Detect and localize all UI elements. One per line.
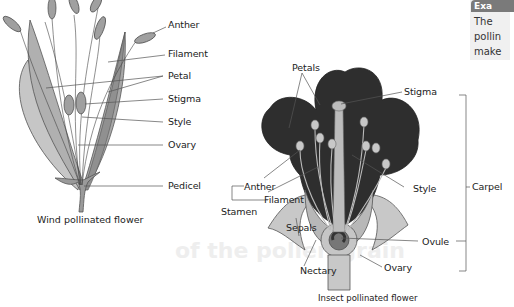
label-filament-insect: Filament [264,194,304,205]
label-pedicel: Pedicel [168,180,201,191]
insect-flower-illustration [262,68,419,290]
label-stamen: Stamen [221,206,257,217]
label-anther-insect: Anther [244,181,275,192]
label-stigma: Stigma [168,93,201,104]
label-petal: Petal [168,70,191,81]
label-stigma-insect: Stigma [404,86,437,97]
label-carpel: Carpel [472,181,502,192]
label-ovary-insect: Ovary [384,262,412,273]
label-petals: Petals [292,62,320,73]
label-ovule: Ovule [422,236,449,247]
caption-wind-flower: Wind pollinated flower [37,214,143,225]
label-ovary: Ovary [168,139,196,150]
label-nectary: Nectary [300,265,337,276]
label-style: Style [168,116,191,127]
label-anther: Anther [168,19,199,30]
wind-flower-illustration [1,0,157,212]
caption-insect-flower: Insect pollinated flower [318,293,417,303]
label-style-insect: Style [413,183,436,194]
label-sepals: Sepals [286,222,317,233]
label-filament: Filament [168,48,208,59]
